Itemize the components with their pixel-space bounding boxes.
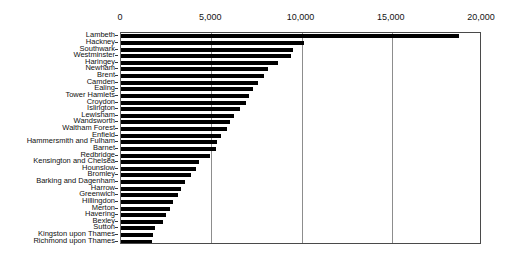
bar (121, 173, 191, 177)
y-tick-mark (115, 141, 118, 142)
x-tick-label: 15,000 (377, 12, 405, 23)
bar (121, 54, 291, 58)
y-tick-mark (115, 161, 118, 162)
bar (121, 187, 181, 191)
y-tick-label: Richmond upon Thames (33, 237, 115, 245)
y-tick-mark (115, 82, 118, 83)
y-tick-mark (115, 135, 118, 136)
bar (121, 120, 230, 124)
bar (121, 101, 246, 105)
y-tick-mark (115, 208, 118, 209)
bar (121, 41, 304, 45)
bar (121, 48, 293, 52)
y-tick-mark (115, 201, 118, 202)
x-axis-tick-label-row: 05,00010,00015,00020,000 (0, 12, 515, 26)
y-tick-mark (115, 174, 118, 175)
bar (121, 154, 210, 158)
bar (121, 240, 152, 244)
bar (121, 67, 268, 71)
bar (121, 213, 166, 217)
bar (121, 180, 185, 184)
y-tick-mark (115, 55, 118, 56)
bar (121, 200, 173, 204)
bar (121, 61, 278, 65)
x-tick-label: 20,000 (467, 12, 495, 23)
y-tick-mark (115, 75, 118, 76)
y-tick-mark (115, 108, 118, 109)
bar (121, 87, 253, 91)
x-tick-label: 5,000 (199, 12, 222, 23)
bar (121, 94, 249, 98)
y-tick-mark (115, 121, 118, 122)
bar (121, 193, 178, 197)
y-tick-mark (115, 221, 118, 222)
y-tick-mark (115, 42, 118, 43)
bar (121, 74, 264, 78)
y-axis-category-label-column: LambethHackneySouthwarkWestminsterHaring… (0, 32, 118, 244)
y-tick-mark (115, 188, 118, 189)
y-tick-mark (115, 102, 118, 103)
y-tick-mark (115, 88, 118, 89)
bar (121, 233, 153, 237)
y-tick-mark (115, 68, 118, 69)
y-tick-mark (115, 62, 118, 63)
bar (121, 34, 459, 38)
bar (121, 226, 155, 230)
horizontal-bar-chart: 05,00010,00015,00020,000 LambethHackneyS… (0, 0, 515, 265)
x-tick-label: 10,000 (287, 12, 315, 23)
bar (121, 127, 227, 131)
y-tick-mark (115, 181, 118, 182)
y-tick-mark (115, 128, 118, 129)
bar (121, 207, 170, 211)
y-tick-mark (115, 194, 118, 195)
y-tick-mark (115, 234, 118, 235)
x-tick-label: 0 (117, 12, 122, 23)
bar (121, 81, 258, 85)
y-tick-mark (115, 35, 118, 36)
bar (121, 220, 163, 224)
bar (121, 160, 199, 164)
plot-area (120, 32, 481, 244)
y-tick-mark (115, 155, 118, 156)
bar (121, 134, 221, 138)
y-tick-mark (115, 95, 118, 96)
bar (121, 114, 234, 118)
y-tick-mark (115, 115, 118, 116)
bar (121, 147, 216, 151)
y-tick-mark (115, 241, 118, 242)
y-tick-mark (115, 227, 118, 228)
bar (121, 167, 196, 171)
bars-layer (121, 33, 480, 243)
bar (121, 107, 240, 111)
bar (121, 140, 217, 144)
y-tick-mark (115, 148, 118, 149)
